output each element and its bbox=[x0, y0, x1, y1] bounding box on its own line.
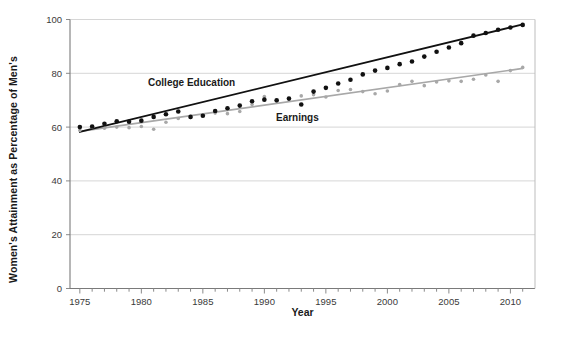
data-point-college-education-1983 bbox=[176, 109, 181, 114]
data-point-college-education-1980 bbox=[139, 118, 144, 123]
data-point-college-education-2003 bbox=[422, 54, 427, 59]
axis-lines-group bbox=[70, 20, 535, 289]
data-point-earnings-2010 bbox=[509, 69, 513, 73]
series-label-college-education: College Education bbox=[148, 77, 235, 88]
data-point-earnings-1978 bbox=[115, 125, 119, 129]
data-point-college-education-1989 bbox=[250, 99, 255, 104]
x-tick-label-1985: 1985 bbox=[192, 296, 213, 307]
series-label-earnings: Earnings bbox=[276, 112, 319, 123]
x-tick-labels-group: 19751980198519901995200020052010 bbox=[69, 296, 521, 307]
data-point-college-education-1976 bbox=[90, 124, 95, 129]
data-point-college-education-1994 bbox=[311, 89, 316, 94]
data-point-college-education-1978 bbox=[114, 119, 119, 124]
data-point-college-education-1987 bbox=[225, 106, 230, 111]
y-tick-label-80: 80 bbox=[51, 68, 62, 79]
x-tick-label-2010: 2010 bbox=[500, 296, 521, 307]
data-point-college-education-2002 bbox=[410, 59, 415, 64]
data-point-college-education-2005 bbox=[447, 45, 452, 50]
y-axis-title: Women's Attainment as Percentage of Men'… bbox=[0, 0, 26, 339]
data-point-college-education-1992 bbox=[287, 96, 292, 101]
x-tick-label-1990: 1990 bbox=[254, 296, 275, 307]
data-point-college-education-1988 bbox=[237, 103, 242, 108]
data-point-earnings-1977 bbox=[103, 126, 107, 130]
data-point-earnings-1997 bbox=[349, 88, 353, 92]
data-point-earnings-2002 bbox=[410, 80, 414, 84]
data-point-earnings-2008 bbox=[484, 73, 488, 77]
data-point-college-education-2011 bbox=[520, 23, 525, 28]
data-point-earnings-2003 bbox=[422, 84, 426, 88]
data-point-earnings-1983 bbox=[176, 117, 180, 121]
data-point-earnings-1979 bbox=[127, 126, 131, 130]
x-tick-label-1980: 1980 bbox=[131, 296, 152, 307]
data-point-college-education-2004 bbox=[434, 49, 439, 54]
chart-plot-svg: 020406080100 197519801985199019952000200… bbox=[0, 0, 570, 339]
data-point-college-education-1991 bbox=[274, 98, 279, 103]
x-tick-label-1975: 1975 bbox=[69, 296, 90, 307]
data-point-college-education-1990 bbox=[262, 97, 267, 102]
data-point-college-education-2007 bbox=[471, 33, 476, 38]
data-point-earnings-2011 bbox=[521, 66, 525, 70]
data-point-college-education-1996 bbox=[336, 81, 341, 86]
data-point-college-education-2001 bbox=[397, 62, 402, 67]
x-tick-label-2000: 2000 bbox=[377, 296, 398, 307]
y-tick-marks-group bbox=[66, 20, 70, 289]
x-tick-label-1995: 1995 bbox=[315, 296, 336, 307]
data-point-college-education-1985 bbox=[201, 114, 206, 119]
data-point-college-education-1982 bbox=[164, 112, 169, 117]
y-tick-label-40: 40 bbox=[51, 175, 62, 186]
y-tick-labels-group: 020406080100 bbox=[46, 14, 62, 294]
data-point-earnings-1996 bbox=[336, 89, 340, 93]
data-point-college-education-1975 bbox=[78, 125, 83, 130]
data-point-earnings-2001 bbox=[398, 83, 402, 87]
data-point-earnings-1993 bbox=[299, 94, 303, 98]
data-point-college-education-2010 bbox=[508, 25, 513, 30]
data-point-earnings-1987 bbox=[226, 112, 230, 116]
data-point-college-education-1998 bbox=[360, 72, 365, 77]
data-point-college-education-1995 bbox=[324, 86, 329, 91]
data-point-college-education-1984 bbox=[188, 115, 193, 120]
data-point-earnings-1988 bbox=[238, 110, 242, 114]
data-point-college-education-1981 bbox=[151, 115, 156, 120]
data-point-earnings-1999 bbox=[373, 92, 377, 96]
data-point-college-education-1999 bbox=[373, 68, 378, 73]
x-tick-marks-group bbox=[80, 289, 523, 294]
y-tick-label-0: 0 bbox=[57, 283, 62, 294]
data-point-college-education-1993 bbox=[299, 102, 304, 107]
x-tick-label-2005: 2005 bbox=[438, 296, 459, 307]
chart-container: 020406080100 197519801985199019952000200… bbox=[0, 0, 570, 339]
y-tick-label-100: 100 bbox=[46, 14, 62, 25]
data-point-earnings-1980 bbox=[140, 125, 144, 129]
data-point-earnings-2009 bbox=[496, 80, 500, 84]
data-point-college-education-2009 bbox=[496, 27, 501, 32]
data-point-earnings-2004 bbox=[435, 80, 439, 84]
y-tick-label-20: 20 bbox=[51, 229, 62, 240]
data-point-college-education-1977 bbox=[102, 122, 107, 127]
data-point-college-education-2006 bbox=[459, 41, 464, 46]
data-point-college-education-1986 bbox=[213, 109, 218, 114]
data-point-earnings-2005 bbox=[447, 79, 451, 83]
data-point-college-education-1997 bbox=[348, 77, 353, 82]
data-point-earnings-2000 bbox=[386, 89, 390, 93]
data-point-earnings-1998 bbox=[361, 90, 365, 94]
data-point-college-education-1979 bbox=[127, 119, 132, 124]
data-point-college-education-2008 bbox=[483, 31, 488, 36]
data-point-earnings-1995 bbox=[324, 95, 328, 99]
y-tick-label-60: 60 bbox=[51, 122, 62, 133]
data-point-earnings-1981 bbox=[152, 127, 156, 131]
x-axis-title: Year bbox=[70, 306, 535, 318]
data-point-earnings-2006 bbox=[459, 80, 463, 84]
data-point-earnings-1982 bbox=[164, 120, 168, 124]
data-point-college-education-2000 bbox=[385, 66, 390, 71]
data-point-earnings-2007 bbox=[472, 77, 476, 81]
